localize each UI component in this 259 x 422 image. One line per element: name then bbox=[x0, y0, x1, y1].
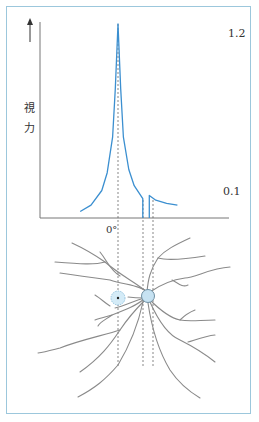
fovea-dot bbox=[117, 297, 119, 299]
x-origin-label: 0° bbox=[106, 224, 117, 235]
vessel bbox=[150, 302, 215, 362]
acuity-diagram bbox=[0, 0, 259, 422]
optic-disc bbox=[142, 290, 155, 303]
figure-caption bbox=[0, 413, 259, 422]
vessel bbox=[188, 335, 215, 342]
vessel bbox=[100, 252, 120, 276]
vessel bbox=[72, 243, 147, 292]
acuity-low-label: 0.1 bbox=[223, 185, 241, 198]
vessel bbox=[80, 300, 145, 372]
acuity-curve-1 bbox=[80, 24, 143, 218]
vessel bbox=[158, 256, 205, 259]
retinal-vessels bbox=[38, 238, 230, 398]
vessel bbox=[95, 295, 110, 306]
acuity-curves bbox=[80, 24, 177, 218]
vessel bbox=[38, 330, 120, 353]
acuity-curve-2 bbox=[149, 195, 177, 218]
vessel bbox=[55, 262, 105, 264]
vessel bbox=[147, 238, 190, 292]
y-axis-arrow-head-icon bbox=[27, 18, 33, 25]
vessel bbox=[148, 303, 200, 398]
y-label-char-1: 視 bbox=[24, 99, 35, 115]
y-label-char-2: 力 bbox=[24, 119, 35, 135]
acuity-high-label: 1.2 bbox=[228, 27, 246, 40]
vessel bbox=[180, 310, 195, 320]
vessel bbox=[150, 267, 230, 292]
vessel bbox=[172, 280, 188, 286]
